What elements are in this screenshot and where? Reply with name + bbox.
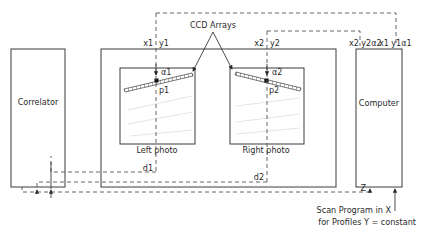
scan-note-line2: for Profiles Y = constant [318,217,416,227]
correlator-label: Correlator [18,97,59,107]
diagram-canvas: Correlator Left photo Right photo Comput… [0,0,426,232]
d1-return-line [51,156,156,172]
d2-return-line [37,182,267,190]
scan-note-line1: Scan Program in X [317,205,392,215]
computer-input-group1: x1 y1α1 [379,39,412,48]
photo-housing [101,49,336,187]
z-return-line [22,187,370,192]
ccd-arrays-label: CCD Arrays [190,20,236,30]
p1-label: p1 [159,86,169,95]
d2-label: d2 [254,173,264,182]
computer-label: Computer [359,98,400,108]
y2-label: y2 [270,39,280,48]
z-label: Z [360,183,366,193]
point-p1-marker [155,79,159,83]
x1-label: x1 [143,39,153,48]
right-photo-label: Right photo [242,145,289,155]
computer-block [356,49,402,187]
p2-label: p2 [269,86,279,95]
alpha1-label: α1 [161,68,171,77]
correlator-block [11,49,65,187]
alpha2-label: α2 [272,68,282,77]
feed-line-x2y2 [267,31,360,46]
point-p2-marker [265,79,269,83]
x2-label: x2 [254,39,264,48]
computer-input-group2: x2 y2α2 [349,39,382,48]
ccd-pointer-right [213,32,232,69]
left-photo-label: Left photo [136,145,177,155]
ccd-pointer-left [193,32,213,71]
y1-label: y1 [159,39,169,48]
